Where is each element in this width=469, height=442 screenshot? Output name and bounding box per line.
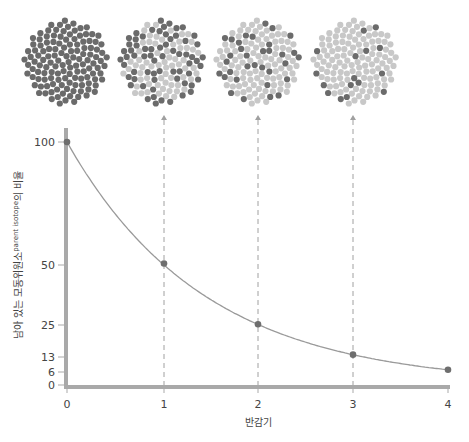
daughter-atom-dot — [232, 57, 238, 63]
parent-atom-dot — [99, 50, 105, 56]
parent-atom-dot — [222, 35, 228, 41]
parent-atom-dot — [32, 82, 38, 88]
daughter-atom-dot — [232, 48, 238, 54]
parent-atom-dot — [72, 82, 78, 88]
daughter-atom-dot — [163, 71, 169, 77]
daughter-atom-dot — [220, 54, 226, 60]
parent-atom-dot — [37, 36, 43, 42]
daughter-atom-dot — [350, 45, 356, 51]
daughter-atom-dot — [222, 41, 228, 47]
daughter-atom-dot — [181, 57, 187, 63]
daughter-atom-dot — [162, 59, 168, 65]
daughter-atom-dot — [159, 37, 165, 43]
parent-atom-dot — [53, 27, 59, 33]
parent-atom-dot — [381, 89, 387, 95]
parent-atom-dot — [62, 97, 68, 103]
daughter-atom-dot — [354, 24, 360, 30]
daughter-atom-dot — [168, 82, 174, 88]
parent-atom-dot — [296, 54, 302, 60]
parent-atom-dot — [59, 82, 65, 88]
parent-atom-dot — [86, 80, 92, 86]
parent-atom-dot — [68, 48, 74, 54]
daughter-atom-dot — [285, 82, 291, 88]
parent-atom-dot — [55, 77, 61, 83]
parent-atom-dot — [128, 47, 134, 53]
daughter-atom-dot — [340, 32, 346, 38]
y-tick-label: 13 — [41, 351, 55, 364]
x-tick-label: 0 — [64, 398, 71, 411]
daughter-atom-dot — [146, 39, 152, 45]
daughter-atom-dot — [253, 45, 259, 51]
daughter-atom-dot — [191, 65, 197, 71]
daughter-atom-dot — [164, 48, 170, 54]
parent-atom-dot — [338, 96, 344, 102]
daughter-atom-dot — [344, 70, 350, 76]
daughter-atom-dot — [268, 56, 274, 62]
daughter-atom-dot — [387, 58, 393, 64]
parent-atom-dot — [197, 63, 203, 69]
daughter-atom-dot — [355, 59, 361, 65]
daughter-atom-dot — [259, 93, 265, 99]
parent-atom-dot — [37, 62, 43, 68]
parent-atom-dot — [42, 77, 48, 83]
parent-atom-dot — [52, 46, 58, 52]
daughter-atom-dot — [349, 62, 355, 68]
daughter-atom-dot — [350, 68, 356, 74]
parent-atom-dot — [84, 74, 90, 80]
daughter-atom-dot — [366, 33, 372, 39]
parent-atom-dot — [259, 64, 265, 70]
parent-atom-dot — [35, 69, 41, 75]
daughter-atom-dot — [346, 100, 352, 106]
daughter-atom-dot — [258, 59, 264, 65]
daughter-atom-dot — [147, 32, 153, 38]
daughter-atom-dot — [144, 22, 150, 28]
daughter-atom-dot — [138, 77, 144, 83]
arrow-up-icon — [255, 115, 261, 120]
daughter-atom-dot — [382, 82, 388, 88]
parent-atom-dot — [166, 21, 172, 27]
daughter-atom-dot — [168, 75, 174, 81]
daughter-atom-dot — [166, 54, 172, 60]
daughter-atom-dot — [338, 69, 344, 75]
parent-atom-dot — [282, 60, 288, 66]
parent-atom-dot — [92, 89, 98, 95]
parent-atom-dot — [52, 52, 58, 58]
parent-atom-dot — [157, 45, 163, 51]
daughter-atom-dot — [224, 82, 230, 88]
parent-atom-dot — [57, 22, 63, 28]
daughter-atom-dot — [152, 40, 158, 46]
parent-atom-dot — [98, 41, 104, 47]
daughter-atom-dot — [289, 70, 295, 76]
daughter-atom-dot — [333, 83, 339, 89]
parent-atom-dot — [284, 76, 290, 82]
parent-atom-dot — [42, 90, 48, 96]
parent-atom-dot — [151, 58, 157, 64]
parent-atom-dot — [31, 59, 37, 65]
daughter-atom-dot — [367, 76, 373, 82]
parent-atom-dot — [126, 35, 132, 41]
parent-atom-dot — [25, 62, 31, 68]
parent-atom-dot — [180, 24, 186, 30]
parent-atom-dot — [194, 41, 200, 47]
daughter-atom-dot — [144, 75, 150, 81]
daughter-atom-dot — [366, 25, 372, 31]
parent-atom-dot — [262, 21, 268, 27]
parent-atom-dot — [86, 65, 92, 71]
daughter-atom-dot — [190, 47, 196, 53]
parent-atom-dot — [62, 75, 68, 81]
parent-atom-dot — [90, 70, 96, 76]
parent-atom-dot — [63, 37, 69, 43]
daughter-atom-dot — [363, 42, 369, 48]
daughter-atom-dot — [360, 99, 366, 105]
parent-atom-dot — [234, 77, 240, 83]
daughter-atom-dot — [286, 47, 292, 53]
isotope-circle — [310, 18, 398, 107]
parent-atom-dot — [74, 69, 80, 75]
daughter-atom-dot — [255, 37, 261, 43]
parent-atom-dot — [35, 53, 41, 59]
x-tick-label: 1 — [161, 398, 168, 411]
parent-atom-dot — [72, 28, 78, 34]
parent-atom-dot — [313, 70, 319, 76]
daughter-atom-dot — [326, 36, 332, 42]
daughter-atom-dot — [353, 86, 359, 92]
